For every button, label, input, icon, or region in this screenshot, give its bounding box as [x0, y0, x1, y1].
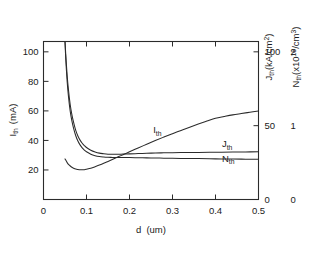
y-left-tick-label: 80 — [28, 76, 39, 87]
threshold-current-chart: 00.10.20.30.40.5 20406080100 050100 012 … — [0, 0, 321, 253]
x-tick-label: 0.1 — [80, 205, 93, 216]
x-tick-label: 0.4 — [209, 205, 222, 216]
y-left-tick-label: 100 — [23, 46, 39, 57]
x-tick-label: 0.2 — [123, 205, 136, 216]
figure-container: 00.10.20.30.40.5 20406080100 050100 012 … — [0, 0, 321, 253]
curve-label-nth-sub: th — [229, 158, 235, 165]
y-right2-tick-label: 0 — [291, 194, 296, 205]
x-tick-label: 0.5 — [252, 205, 265, 216]
y-left-title-sub: th — [12, 128, 19, 134]
y-right2-title-unit: (x10 — [290, 56, 301, 74]
x-tick-label: 0.3 — [166, 205, 179, 216]
y-right2-title-close2: ) — [290, 27, 301, 30]
curve-label-ith-sub: th — [156, 130, 162, 137]
y-left-tick-label: 40 — [28, 135, 39, 146]
y-right2-title-close: /cm — [290, 33, 301, 48]
y-right1-tick-label: 0 — [265, 194, 270, 205]
x-axis-title: d(um) — [136, 224, 166, 235]
x-axis-title-unit: (um) — [146, 224, 166, 235]
y-right1-tick-label: 50 — [265, 120, 276, 131]
y-left-tick-label: 20 — [28, 164, 39, 175]
y-right1-title-close: ) — [263, 34, 274, 37]
curve-label-jth-sub: th — [227, 144, 233, 151]
y-left-title-unit: (mA) — [7, 104, 18, 125]
x-tick-label: 0 — [41, 205, 46, 216]
svg-text:d(um): d(um) — [136, 224, 166, 235]
x-axis-title-main: d — [136, 224, 141, 235]
y-left-tick-label: 60 — [28, 105, 39, 116]
y-right2-tick-label: 1 — [291, 120, 296, 131]
y-right1-title-unit: (kA/cm — [263, 40, 274, 70]
